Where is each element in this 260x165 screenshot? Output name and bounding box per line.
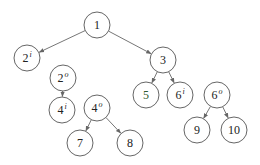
node-n9: 9 — [184, 117, 210, 143]
node-n10: 10 — [221, 117, 247, 143]
nodes-group: 12i32o4i4o56i6o78910 — [14, 12, 247, 156]
node-label: 1 — [94, 18, 100, 32]
node-n6o: 6o — [204, 82, 230, 108]
edge-n1-n3 — [108, 31, 151, 54]
node-label: 8 — [127, 136, 133, 150]
node-n8: 8 — [117, 130, 143, 156]
node-n3: 3 — [150, 47, 176, 73]
edge-n4o-n7 — [86, 120, 91, 131]
tree-diagram: 12i32o4i4o56i6o78910 — [0, 0, 260, 165]
node-n1: 1 — [84, 12, 110, 38]
node-n4o: 4o — [84, 95, 110, 121]
node-n2i: 2i — [14, 45, 40, 71]
node-label: 10 — [228, 123, 240, 137]
node-label: 3 — [160, 53, 166, 67]
edge-n3-n6i — [169, 72, 174, 83]
node-n7: 7 — [67, 130, 93, 156]
edge-n4o-n8 — [106, 117, 121, 133]
node-label: 7 — [77, 136, 83, 150]
edge-n6o-n9 — [204, 106, 211, 118]
edge-n3-n5 — [152, 72, 157, 83]
edge-n1-n2i — [39, 31, 85, 53]
node-n4i: 4i — [49, 97, 75, 123]
node-n6i: 6i — [167, 82, 193, 108]
edge-n6o-n10 — [223, 107, 228, 118]
node-n5: 5 — [133, 82, 159, 108]
node-n2o: 2o — [50, 65, 76, 91]
node-label: 9 — [194, 123, 200, 137]
node-label: 5 — [143, 88, 149, 102]
